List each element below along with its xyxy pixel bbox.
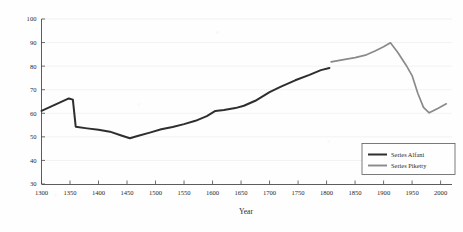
x-tick-label: 1350 — [63, 189, 77, 196]
legend-label-piketty: Series Piketty — [391, 162, 427, 169]
x-tick-label: 1550 — [177, 189, 191, 196]
y-tick-label: 90 — [30, 39, 37, 46]
x-tick-label: 2000 — [434, 189, 448, 196]
x-tick-label: 1950 — [405, 189, 419, 196]
y-tick-label: 40 — [30, 157, 37, 164]
y-tick-label: 50 — [30, 133, 37, 140]
y-tick-label: 70 — [30, 86, 37, 93]
y-tick-label: 60 — [30, 110, 37, 117]
x-axis-title: Year — [239, 207, 253, 216]
x-tick-label: 1650 — [234, 189, 248, 196]
x-tick-label: 1750 — [291, 189, 305, 196]
x-tick-label: 1600 — [206, 189, 220, 196]
x-tick-label: 1450 — [120, 189, 134, 196]
line-chart: 1300135014001450150015501600165017001750… — [0, 0, 463, 232]
x-tick-label: 1700 — [263, 189, 277, 196]
y-tick-label: 80 — [30, 63, 37, 70]
x-tick-label: 1850 — [348, 189, 362, 196]
y-tick-label: 30 — [30, 180, 37, 187]
x-tick-labels: 1300135014001450150015501600165017001750… — [35, 189, 448, 196]
x-tick-label: 1500 — [149, 189, 163, 196]
x-tick-label: 1400 — [92, 189, 106, 196]
x-tick-label: 1900 — [377, 189, 391, 196]
y-tick-label: 100 — [27, 15, 38, 22]
x-tick-label: 1300 — [35, 189, 49, 196]
legend: Series Alfani Series Piketty — [362, 144, 455, 175]
chart-background — [0, 0, 463, 232]
chart-figure: 1300135014001450150015501600165017001750… — [0, 0, 463, 232]
legend-box — [362, 144, 455, 175]
legend-label-alfani: Series Alfani — [391, 151, 424, 158]
x-tick-label: 1800 — [320, 189, 334, 196]
